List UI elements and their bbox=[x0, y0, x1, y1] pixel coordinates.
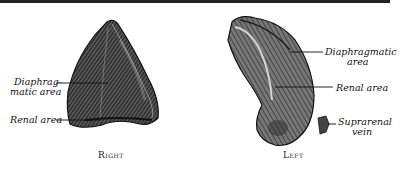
caption-left: Left bbox=[283, 150, 304, 160]
label-right-diaphragmatic-2: matic area bbox=[10, 87, 61, 97]
left-gland bbox=[228, 17, 336, 146]
label-right-renal: Renal area bbox=[10, 115, 62, 125]
label-left-renal: Renal area bbox=[336, 83, 388, 93]
label-left-diaphragmatic-2: area bbox=[347, 57, 369, 67]
label-left-suprarenal-vein-2: vein bbox=[352, 127, 372, 137]
caption-right: Right bbox=[98, 150, 124, 160]
right-gland bbox=[56, 20, 158, 127]
